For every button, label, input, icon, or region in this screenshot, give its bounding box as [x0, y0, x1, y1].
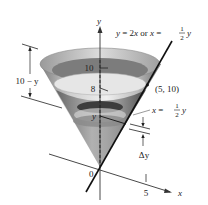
point-label: (5, 10)	[155, 84, 179, 94]
delta-arrowhead-top	[141, 123, 144, 127]
x-axis-arrow	[164, 189, 172, 194]
y-axis-arrow	[98, 26, 103, 33]
x-tick-5-label: 5	[144, 188, 149, 198]
y-tick-10-label: 10	[85, 63, 95, 73]
height-label: 10 − y	[15, 76, 39, 86]
equation-label: y = 2x or x = 1 2 y	[115, 25, 191, 42]
cone-diagram: y x 5 0 y = 2x or x = 1 2 y 10 8 (5, 10)…	[0, 0, 208, 205]
x-axis	[49, 154, 170, 192]
delta-line-bottom	[129, 129, 150, 134]
origin-label: 0	[89, 169, 94, 179]
point-5-10	[146, 84, 149, 87]
svg-text:2: 2	[180, 34, 184, 42]
y-tick-8-label: 8	[91, 84, 96, 94]
delta-arrowhead-bottom	[141, 134, 144, 138]
svg-text:y: y	[186, 28, 191, 38]
svg-text:y = 2x or x =: y = 2x or x =	[115, 28, 161, 38]
delta-line-top	[130, 124, 150, 129]
radius-label: x = 1 2 y	[151, 102, 186, 119]
svg-text:1: 1	[175, 102, 179, 110]
radius-leader	[133, 110, 150, 115]
x-axis-label: x	[177, 188, 182, 198]
height-line-bottom	[21, 96, 62, 108]
delta-y-label: Δy	[139, 150, 150, 160]
svg-text:1: 1	[180, 25, 184, 33]
y-axis-label: y	[96, 16, 101, 26]
height-arrowhead-bottom	[28, 93, 31, 98]
svg-text:2: 2	[175, 111, 179, 119]
y-level-label: y	[91, 111, 96, 121]
svg-text:x =: x =	[151, 105, 163, 115]
svg-text:y: y	[181, 105, 186, 115]
